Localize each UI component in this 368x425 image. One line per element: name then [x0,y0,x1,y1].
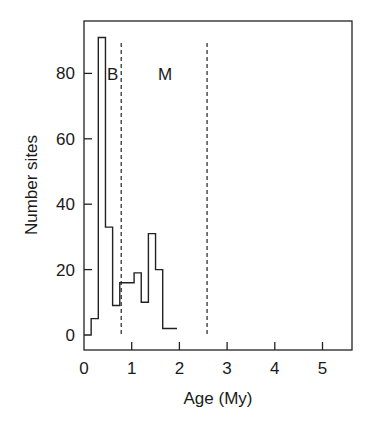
reference-lines [121,43,207,337]
x-axis-ticks: 012345 [79,342,327,378]
x-axis-label: Age (My) [184,389,253,408]
y-tick-label: 80 [56,64,75,83]
x-tick-label: 1 [127,359,136,378]
histogram-chart: 012345 020406080 BM Age (My) Number site… [0,0,368,425]
x-tick-label: 4 [270,359,279,378]
y-tick-label: 40 [56,195,75,214]
x-tick-label: 0 [79,359,88,378]
y-axis-ticks: 020406080 [56,64,92,345]
y-tick-label: 0 [66,326,75,345]
y-tick-label: 60 [56,130,75,149]
plot-frame [84,21,352,350]
y-tick-label: 20 [56,261,75,280]
x-tick-label: 3 [222,359,231,378]
annotations: BM [107,65,172,84]
x-tick-label: 2 [175,359,184,378]
annotation-m: M [158,65,172,84]
y-axis-label: Number sites [22,135,41,235]
annotation-b: B [107,65,118,84]
x-tick-label: 5 [318,359,327,378]
